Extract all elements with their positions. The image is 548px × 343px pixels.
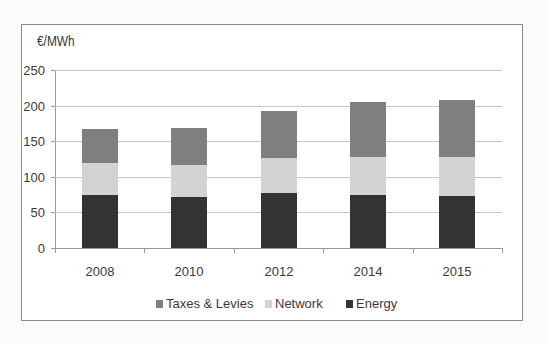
legend-label: Energy [356,296,397,311]
y-tick-mark [51,141,55,142]
y-tick-label: 250 [0,63,45,78]
legend-swatch-taxes-levies [156,300,163,308]
x-tick-label: 2015 [427,264,487,279]
gridline [55,70,502,71]
bar-segment-network [350,157,386,195]
bar-segment-energy [350,195,386,248]
y-tick-label: 50 [0,205,45,220]
bar-segment-energy [82,195,118,248]
legend-swatch-energy [346,300,353,308]
bar-segment-network [439,157,475,196]
bar-2015 [439,100,475,248]
y-tick-mark [51,70,55,71]
y-tick-label: 100 [0,170,45,185]
bar-segment-taxes-levies [171,128,207,166]
bar-segment-energy [261,193,297,248]
gridline [55,106,502,107]
legend-item-energy: Energy [346,296,397,311]
bar-segment-energy [439,196,475,248]
y-axis [55,70,56,252]
x-tick-label: 2012 [249,264,309,279]
legend-swatch-network [265,300,272,308]
legend-item-network: Network [265,296,323,311]
x-tick-mark [55,248,56,253]
bar-segment-network [82,163,118,194]
y-tick-label: 150 [0,134,45,149]
x-axis [51,248,502,249]
legend: Taxes & Levies Network Energy [0,296,548,312]
x-tick-label: 2014 [338,264,398,279]
y-tick-mark [51,212,55,213]
bar-segment-taxes-levies [439,100,475,157]
y-tick-label: 200 [0,99,45,114]
x-tick-mark [144,248,145,253]
legend-label: Taxes & Levies [166,296,253,311]
y-tick-mark [51,106,55,107]
y-tick-label: 0 [0,241,45,256]
x-tick-mark [234,248,235,253]
bar-2008 [82,129,118,248]
bar-segment-network [261,158,297,193]
x-tick-mark [323,248,324,253]
bar-2014 [350,102,386,248]
x-tick-mark [502,248,503,253]
bar-segment-network [171,165,207,197]
y-axis-unit-label: €/MWh [37,33,75,49]
bar-segment-energy [171,197,207,248]
x-tick-label: 2008 [70,264,130,279]
bar-2010 [171,128,207,248]
bar-2012 [261,111,297,248]
x-tick-mark [413,248,414,253]
bar-segment-taxes-levies [82,129,118,163]
y-tick-mark [51,177,55,178]
legend-label: Network [275,296,323,311]
x-tick-label: 2010 [159,264,219,279]
bar-segment-taxes-levies [350,102,386,157]
bar-segment-taxes-levies [261,111,297,158]
legend-item-taxes-levies: Taxes & Levies [156,296,253,311]
